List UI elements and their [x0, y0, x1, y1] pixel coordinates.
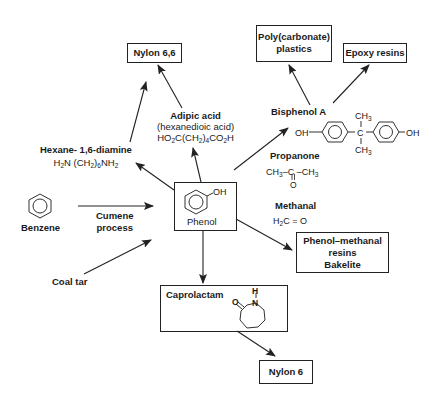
- arrow-bisphenol-to-polycarbonate: [289, 65, 310, 105]
- cumene-line2: process: [96, 222, 133, 234]
- adipic-acid-name: Adipic acid: [157, 110, 234, 121]
- adipic-acid-formula: HO2C(CH2)4CO2H: [157, 132, 234, 143]
- bisphenol-center-c: C: [357, 127, 364, 139]
- caprolactam-hydrogen: H: [252, 285, 258, 297]
- product-nylon-66: Nylon 6,6: [127, 43, 182, 63]
- bisphenol-top-ch3: CH3: [355, 110, 372, 122]
- adipic-acid-label: Adipic acid (hexanedioic acid) HO2C(CH2)…: [157, 110, 234, 143]
- bisphenol-bottom-ch3: CH3: [355, 144, 372, 156]
- arrow-coaltar-to-phenol: [84, 240, 151, 274]
- bisphenol-right-oh: OH: [406, 127, 420, 139]
- product-nylon-6: Nylon 6: [259, 360, 313, 384]
- phenol-label: Phenol: [187, 216, 217, 228]
- arrow-phenol-to-bisphenol: [234, 128, 288, 170]
- epoxy-label: Epoxy resins: [345, 47, 404, 58]
- arrow-bisphenol-to-epoxy: [333, 65, 369, 103]
- phenol-oh-group: OH: [213, 186, 227, 198]
- nylon-6-label: Nylon 6: [269, 366, 303, 377]
- hexane-diamine-label: Hexane- 1,6-diamine H2N (CH2)6NH2: [40, 144, 132, 169]
- resins-label-line3: Bakelite: [297, 259, 388, 271]
- caprolactam-nitrogen: N: [252, 297, 258, 309]
- hexane-diamine-formula: H2N (CH2)6NH2: [40, 157, 132, 169]
- nylon-66-label: Nylon 6,6: [133, 47, 175, 58]
- propanone-oxygen: O: [290, 179, 297, 191]
- methanal-label: Methanal: [275, 200, 316, 212]
- product-caprolactam: Caprolactam: [160, 285, 288, 332]
- hexane-diamine-name: Hexane- 1,6-diamine: [40, 144, 132, 156]
- methanal-formula: H2C = O: [273, 215, 307, 227]
- coal-tar-label: Coal tar: [52, 276, 87, 288]
- bisphenol-a-label: Bisphenol A: [271, 106, 326, 118]
- product-epoxy-resins: Epoxy resins: [343, 43, 407, 63]
- propanone-formula: CH3–C –CH3: [266, 166, 318, 178]
- arrow-phenol-to-adipic: [193, 148, 201, 182]
- product-polycarbonate: Poly(carbonate) plastics: [256, 25, 332, 62]
- caprolactam-label: Caprolactam: [166, 289, 224, 300]
- propanone-label: Propanone: [270, 150, 320, 162]
- polycarbonate-label-line1: Poly(carbonate): [257, 31, 331, 43]
- cumene-line1: Cumene: [96, 210, 133, 222]
- resins-label-line2: resins: [297, 247, 388, 259]
- arrow-diamine-to-nylon66: [130, 82, 146, 142]
- bisphenol-left-oh: OH: [295, 127, 309, 139]
- product-phenol-methanal-resins: Phenol–methanal resins Bakelite: [296, 232, 389, 273]
- arrow-adipic-to-nylon66: [158, 65, 182, 108]
- arrow-phenol-to-diamine: [136, 163, 174, 190]
- adipic-acid-alt-name: (hexanedioic acid): [157, 121, 234, 132]
- benzene-label: Benzene: [21, 222, 60, 234]
- resins-label-line1: Phenol–methanal: [297, 235, 388, 247]
- arrow-caprolactam-to-nylon6: [237, 331, 275, 356]
- polycarbonate-label-line2: plastics: [257, 43, 331, 55]
- benzene-ring-icon: [29, 194, 51, 218]
- caprolactam-oxygen: O: [232, 296, 239, 308]
- cumene-process-label: Cumene process: [96, 210, 133, 234]
